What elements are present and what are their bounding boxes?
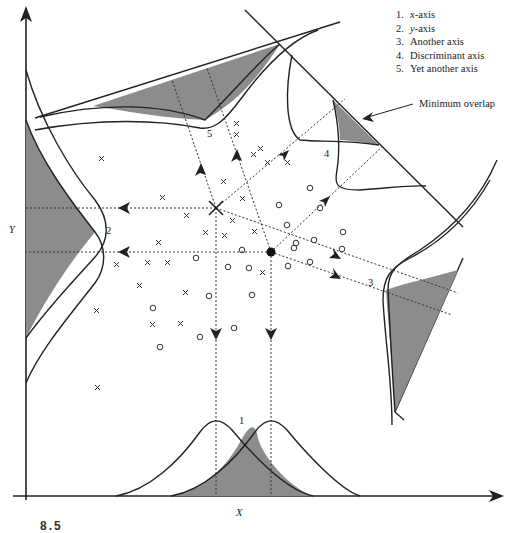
minimum-overlap-pointer	[362, 104, 413, 122]
arrow-up-icon	[195, 163, 206, 176]
main-axes	[13, 14, 498, 500]
legend-item-2: 2.y-axis	[396, 22, 484, 36]
projection-1-densities	[116, 421, 360, 496]
projection-label-1: 1	[239, 415, 244, 426]
class-x-points	[94, 121, 290, 390]
legend-item-5: 5.Yet another axis	[396, 62, 484, 76]
legend: 1.x-axis 2.y-axis 3.Another axis 4.Discr…	[396, 8, 484, 76]
centroid-class-o	[267, 248, 276, 257]
legend-item-1: 1.x-axis	[396, 8, 484, 22]
projection-label-4: 4	[324, 148, 329, 159]
arrow-up-icon	[231, 149, 242, 162]
lda-projection-diagram	[0, 0, 511, 533]
arrow-left-icon	[118, 202, 130, 214]
projection-label-3: 3	[368, 277, 373, 288]
projection-guides	[26, 68, 458, 496]
projection-label-5: 5	[207, 128, 212, 139]
projection-5-densities	[35, 22, 340, 130]
arrow-left-icon	[118, 246, 130, 258]
legend-item-4: 4.Discriminant axis	[396, 49, 484, 63]
minimum-overlap-label: Minimum overlap	[419, 98, 495, 109]
arrow-right-icon	[329, 268, 341, 279]
projection-label-2: 2	[106, 225, 111, 236]
projection-3-densities	[383, 160, 497, 425]
direction-arrows	[118, 149, 341, 340]
figure-number: 8.5	[40, 519, 63, 533]
y-axis-label: Y	[9, 224, 15, 235]
arrow-up-right-icon	[278, 150, 289, 161]
legend-item-3: 3.Another axis	[396, 35, 484, 49]
x-axis-label: X	[236, 507, 242, 518]
